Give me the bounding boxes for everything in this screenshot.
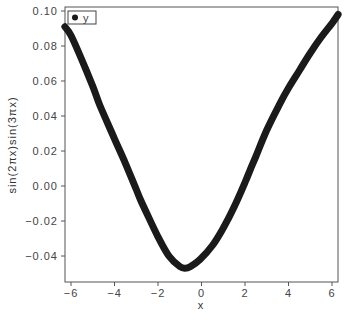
y-tick-label: 0.10 — [33, 5, 58, 17]
x-tick-label: 0 — [198, 287, 205, 299]
y-tick-label: 0.08 — [33, 40, 58, 52]
y-tick-label: −0.04 — [25, 250, 58, 262]
x-axis-label: x — [198, 299, 205, 311]
legend: y — [68, 11, 96, 24]
legend-marker-icon — [72, 15, 78, 21]
x-tick-label: −4 — [107, 287, 122, 299]
y-tick-label: 0.06 — [33, 75, 58, 87]
chart: 0.100.080.060.040.020.00−0.02−0.04 −6−4−… — [0, 0, 346, 320]
x-tick-label: 2 — [241, 287, 248, 299]
x-axis: −6−4−20246 — [64, 282, 336, 299]
y-axis: 0.100.080.060.040.020.00−0.02−0.04 — [25, 5, 65, 262]
legend-label: y — [83, 12, 90, 24]
y-tick-label: −0.02 — [25, 215, 58, 227]
y-tick-label: 0.02 — [33, 145, 58, 157]
x-tick-label: −6 — [64, 287, 79, 299]
y-axis-label: sin(2πx)sin(3πx) — [6, 96, 18, 193]
plot-area — [65, 7, 338, 282]
x-tick-label: 6 — [328, 287, 335, 299]
x-tick-label: 4 — [285, 287, 292, 299]
y-tick-label: 0.00 — [33, 180, 58, 192]
y-tick-label: 0.04 — [33, 110, 58, 122]
x-tick-label: −2 — [151, 287, 166, 299]
